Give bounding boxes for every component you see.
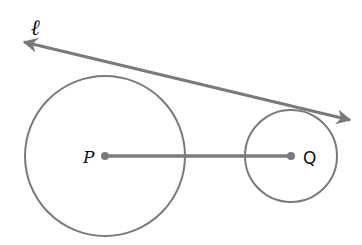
point-q [287,152,295,160]
tangent-line-l [24,42,350,120]
label-p: P [82,147,95,167]
tangent-circles-diagram: ℓ P Q [0,0,362,245]
point-p [101,152,109,160]
label-q: Q [303,148,316,168]
label-line-l: ℓ [31,14,40,40]
